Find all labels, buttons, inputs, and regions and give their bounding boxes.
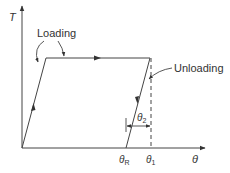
plateau-arrow-icon (94, 56, 101, 61)
loading-pointer-left (36, 41, 44, 62)
theta-r-label: θR (119, 154, 130, 166)
theta-1-label: θ1 (146, 154, 155, 166)
loading-label: Loading (37, 27, 76, 39)
unloading-pointer (149, 68, 172, 79)
loading-line (22, 58, 46, 148)
y-axis-label: T (9, 11, 17, 23)
unloading-label: Unloading (174, 62, 224, 74)
torque-twist-diagram: T θ Loading Unloading θ2 θR θ1 (0, 0, 230, 173)
loading-line-arrow-icon (31, 103, 36, 111)
loading-pointer-right (58, 41, 64, 56)
x-axis-label: θ (192, 153, 198, 165)
theta2-label: θ2 (137, 112, 146, 124)
unloading-line (126, 58, 150, 148)
